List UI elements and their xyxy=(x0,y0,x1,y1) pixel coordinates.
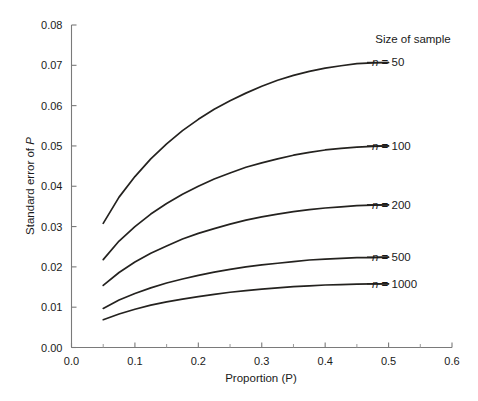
y-tick-label: 0.00 xyxy=(41,342,62,354)
x-tick-label: 0.4 xyxy=(318,355,333,367)
x-tick-label: 0.2 xyxy=(191,355,206,367)
y-tick-label: 0.07 xyxy=(41,59,62,71)
y-tick-label: 0.04 xyxy=(41,180,62,192)
x-tick-label: 0.3 xyxy=(254,355,269,367)
y-axis-tick-labels: 0.000.010.020.030.040.050.060.070.08 xyxy=(41,19,62,354)
legend-label-500: n = 500 xyxy=(372,251,411,263)
legend-title: Size of sample xyxy=(375,33,450,45)
legend-label-200: n = 200 xyxy=(372,199,411,211)
standard-error-line-chart: 0.00.10.20.30.40.50.6 0.000.010.020.030.… xyxy=(0,0,478,401)
x-axis-title: Proportion (P) xyxy=(225,372,297,384)
chart-figure: 0.00.10.20.30.40.50.6 0.000.010.020.030.… xyxy=(0,0,478,401)
y-axis-title: Standard error of P xyxy=(24,137,36,235)
y-axis-title-text: Standard error of xyxy=(24,145,36,235)
y-tick-label: 0.06 xyxy=(41,100,62,112)
legend-label-50: n = 50 xyxy=(372,56,404,68)
x-tick-label: 0.6 xyxy=(444,355,459,367)
x-tick-label: 0.0 xyxy=(64,355,79,367)
x-tick-label: 0.1 xyxy=(127,355,142,367)
legend-label-1000: n = 1000 xyxy=(372,278,417,290)
x-tick-label: 0.5 xyxy=(381,355,396,367)
legend-label-100: n = 100 xyxy=(372,140,411,152)
y-tick-label: 0.08 xyxy=(41,19,62,31)
y-tick-label: 0.02 xyxy=(41,261,62,273)
y-tick-label: 0.01 xyxy=(41,301,62,313)
y-tick-label: 0.03 xyxy=(41,221,62,233)
y-axis-title-variable: P xyxy=(24,137,36,145)
y-tick-label: 0.05 xyxy=(41,140,62,152)
